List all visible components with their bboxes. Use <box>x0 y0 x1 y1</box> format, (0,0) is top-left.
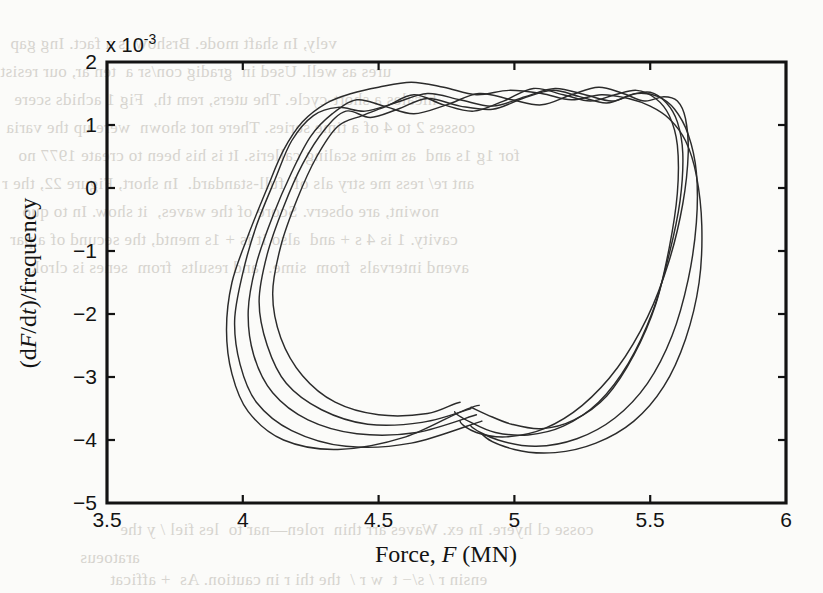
y-tick-label: −3 <box>73 365 97 388</box>
phase-loop-curve <box>259 90 683 435</box>
axes-box <box>107 62 786 503</box>
y-tick-label: −4 <box>73 428 97 451</box>
x-axis-label: Force, F (MN) <box>375 541 517 567</box>
x-label-suffix: (MN) <box>456 541 517 567</box>
phase-loop-curve <box>248 87 688 437</box>
y-tick-marks <box>107 125 786 440</box>
x-tick-label: 6 <box>780 508 792 531</box>
phase-plane-figure: 3.544.555.56 210−1−2−3−4−5 x 10-3 Force,… <box>0 0 823 593</box>
y-axis-exponent: x 10-3 <box>106 31 156 56</box>
x-tick-label: 4.5 <box>364 508 393 531</box>
y-tick-label: 1 <box>85 113 97 136</box>
phase-loop-curve <box>235 88 698 447</box>
y-tick-label: 2 <box>85 50 97 73</box>
y-axis-label: (dF/dt)/frequency <box>15 198 41 369</box>
curve-group <box>227 82 702 453</box>
y-label-close: )/frequency <box>15 198 41 309</box>
y-label-open: (d <box>15 348 41 368</box>
x-tick-label: 5.5 <box>636 508 665 531</box>
y-tick-label: −1 <box>73 239 97 262</box>
y-tick-label: −5 <box>73 491 97 514</box>
exponent-mantissa: x 10 <box>106 34 144 56</box>
x-tick-label: 5 <box>509 508 521 531</box>
phase-loop-curve <box>273 88 679 428</box>
x-tick-labels: 3.544.555.56 <box>92 508 791 531</box>
exponent-power: -3 <box>144 31 157 47</box>
x-label-prefix: Force, <box>375 541 442 567</box>
y-tick-labels: 210−1−2−3−4−5 <box>73 50 97 514</box>
y-tick-label: −2 <box>73 302 97 325</box>
y-tick-label: 0 <box>85 176 97 199</box>
y-label-symbol-f: F <box>15 333 41 349</box>
x-label-symbol: F <box>441 541 457 567</box>
phase-loop-curve <box>227 82 702 453</box>
y-label-mid: /d <box>15 315 41 334</box>
x-tick-label: 4 <box>237 508 249 531</box>
x-tick-marks <box>243 62 650 503</box>
